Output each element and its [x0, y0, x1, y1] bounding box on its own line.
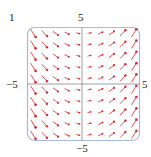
arrow-head-icon [68, 33, 70, 35]
arrow-head-icon [101, 122, 103, 124]
arrow-head-icon [124, 86, 126, 88]
arrow-head-icon [90, 55, 92, 57]
arrow-head-icon [101, 54, 103, 56]
arrow-head-icon [90, 32, 92, 34]
field-arrow [131, 108, 136, 116]
arrow-head-icon [46, 35, 48, 37]
arrow-head-icon [34, 58, 37, 61]
field-arrow [31, 120, 36, 128]
arrow-head-icon [34, 104, 37, 107]
arrow-head-icon [79, 55, 81, 57]
arrow-head-icon [90, 77, 92, 79]
arrow-head-icon [135, 51, 138, 54]
arrow-head-icon [46, 125, 48, 127]
field-arrow [31, 86, 36, 94]
field-arrow [31, 108, 36, 116]
arrow-head-icon [34, 137, 37, 140]
field-arrow [31, 97, 36, 105]
arrow-head-icon [34, 126, 37, 129]
arrow-head-icon [124, 63, 126, 65]
arrow-head-icon [101, 110, 103, 112]
arrow-head-icon [57, 79, 59, 81]
field-arrow [131, 63, 136, 71]
arrow-head-icon [101, 99, 103, 101]
arrow-head-icon [79, 100, 81, 102]
arrow-head-icon [34, 81, 37, 84]
field-arrow [31, 63, 36, 71]
arrow-head-icon [124, 120, 126, 122]
arrow-head-icon [90, 100, 92, 102]
arrow-head-icon [135, 62, 138, 65]
arrow-head-icon [90, 43, 92, 45]
arrow-head-icon [57, 68, 59, 70]
field-arrow [31, 41, 36, 49]
arrow-head-icon [90, 111, 92, 113]
arrow-head-icon [101, 88, 103, 90]
arrow-head-icon [90, 134, 92, 136]
field-arrow [31, 29, 36, 37]
arrow-head-icon [46, 91, 48, 93]
vector-field-plot [0, 0, 151, 157]
field-arrow [31, 74, 36, 82]
arrow-head-icon [124, 52, 126, 54]
arrow-head-icon [57, 34, 59, 36]
arrow-head-icon [113, 109, 115, 111]
arrow-head-icon [113, 30, 115, 32]
arrow-head-icon [79, 123, 81, 125]
arrow-head-icon [113, 53, 115, 55]
field-arrow [131, 86, 136, 94]
arrow-head-icon [113, 121, 115, 123]
arrow-head-icon [124, 97, 126, 99]
arrow-head-icon [46, 46, 48, 48]
arrow-head-icon [68, 56, 70, 58]
arrow-head-icon [57, 124, 59, 126]
arrow-head-icon [113, 42, 115, 44]
arrow-head-icon [34, 70, 37, 73]
arrow-head-icon [79, 112, 81, 114]
arrow-head-icon [34, 36, 37, 39]
arrow-head-icon [34, 115, 37, 118]
field-arrow [131, 131, 136, 139]
arrow-head-icon [113, 132, 115, 134]
arrow-head-icon [79, 67, 81, 69]
arrow-head-icon [124, 108, 126, 110]
field-arrow [31, 131, 36, 139]
arrow-head-icon [57, 113, 59, 115]
arrow-head-icon [135, 130, 138, 133]
field-arrow [131, 74, 136, 82]
arrow-head-icon [101, 65, 103, 67]
arrow-head-icon [135, 39, 138, 42]
arrow-head-icon [68, 90, 70, 92]
field-arrow [131, 52, 136, 60]
arrow-head-icon [57, 45, 59, 47]
arrow-head-icon [90, 88, 92, 90]
arrow-head-icon [57, 102, 59, 104]
arrow-head-icon [46, 103, 48, 105]
arrow-head-icon [101, 31, 103, 33]
arrow-head-icon [135, 118, 138, 121]
arrow-head-icon [34, 47, 37, 50]
arrow-head-icon [68, 135, 70, 137]
field-arrow [131, 97, 136, 105]
arrow-head-icon [46, 136, 48, 138]
arrow-head-icon [79, 89, 81, 91]
arrow-head-icon [79, 44, 81, 46]
arrow-head-icon [101, 42, 103, 44]
arrow-head-icon [79, 78, 81, 80]
field-arrow [131, 41, 136, 49]
field-arrow [31, 52, 36, 60]
arrow-head-icon [68, 44, 70, 46]
arrow-head-icon [46, 69, 48, 71]
arrow-head-icon [57, 90, 59, 92]
arrow-head-icon [124, 131, 126, 133]
arrow-head-icon [113, 87, 115, 89]
arrow-head-icon [57, 136, 59, 138]
arrow-head-icon [135, 73, 138, 76]
field-arrow [131, 29, 136, 37]
arrow-head-icon [101, 133, 103, 135]
arrow-head-icon [135, 28, 138, 31]
arrow-head-icon [124, 40, 126, 42]
arrow-head-icon [101, 76, 103, 78]
arrow-head-icon [34, 92, 37, 95]
arrow-head-icon [68, 101, 70, 103]
